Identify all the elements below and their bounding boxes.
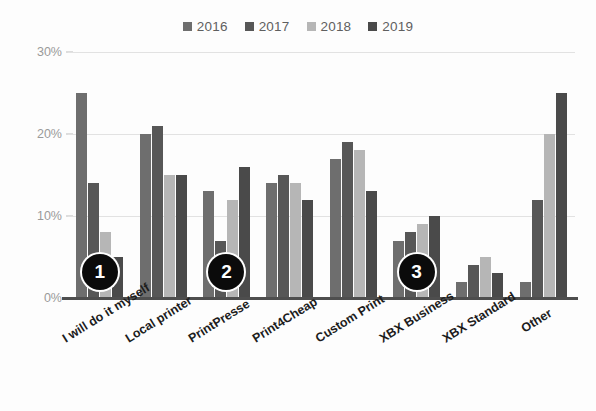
bar[interactable]	[278, 175, 289, 298]
bar[interactable]	[302, 200, 313, 298]
x-axis-category-label: Custom Print	[313, 306, 365, 345]
bar[interactable]	[468, 265, 479, 298]
legend-item-2016[interactable]: 2016	[183, 20, 228, 34]
x-axis-category-label: XBX Standard	[440, 306, 492, 345]
legend-swatch-icon	[183, 22, 192, 31]
bar[interactable]	[164, 175, 175, 298]
y-axis-tick-label: 20%	[22, 127, 62, 141]
bar[interactable]	[152, 126, 163, 298]
legend-label: 2019	[382, 20, 413, 34]
y-axis-tick-label: 10%	[22, 209, 62, 223]
bar[interactable]	[342, 142, 353, 298]
bar[interactable]	[266, 183, 277, 298]
bar-group	[138, 52, 188, 298]
y-axis-tick-label: 30%	[22, 45, 62, 59]
x-axis-labels: I will do it myselfLocal printerPrintPre…	[68, 300, 575, 395]
plot-area	[68, 52, 575, 298]
legend-swatch-icon	[245, 22, 254, 31]
bar[interactable]	[456, 282, 467, 298]
legend-label: 2017	[259, 20, 290, 34]
x-axis-category-label: PrintPresse	[186, 306, 238, 345]
x-axis-category-label: Other	[503, 306, 555, 345]
bar-group	[328, 52, 378, 298]
legend-item-2019[interactable]: 2019	[368, 20, 413, 34]
y-axis-tick-label: 0%	[22, 291, 62, 305]
bar-chart: 2016201720182019 0%10%20%30% I will do i…	[0, 0, 596, 411]
y-axis-labels: 0%10%20%30%	[22, 52, 62, 298]
x-axis-category-label: XBX Business	[376, 306, 428, 345]
bar[interactable]	[354, 150, 365, 298]
x-axis-category-label: I will do it myself	[60, 306, 112, 345]
bar[interactable]	[366, 191, 377, 298]
legend-item-2018[interactable]: 2018	[307, 20, 352, 34]
bar[interactable]	[330, 159, 341, 298]
legend-label: 2016	[197, 20, 228, 34]
legend-item-2017[interactable]: 2017	[245, 20, 290, 34]
annotation-badge-3[interactable]: 3	[399, 254, 435, 290]
bar[interactable]	[532, 200, 543, 298]
x-axis-category-label: Local printer	[123, 306, 175, 345]
bar[interactable]	[480, 257, 491, 298]
bar-group	[455, 52, 505, 298]
legend-swatch-icon	[368, 22, 377, 31]
legend-swatch-icon	[307, 22, 316, 31]
x-axis-category-label: Print4Cheap	[250, 306, 302, 345]
annotation-badge-1[interactable]: 1	[82, 254, 118, 290]
bar-group	[265, 52, 315, 298]
bar[interactable]	[520, 282, 531, 298]
bar[interactable]	[544, 134, 555, 298]
bar[interactable]	[176, 175, 187, 298]
bar-group	[518, 52, 568, 298]
legend-label: 2018	[321, 20, 352, 34]
chart-legend: 2016201720182019	[0, 20, 596, 34]
bar[interactable]	[290, 183, 301, 298]
bar[interactable]	[140, 134, 151, 298]
bar[interactable]	[556, 93, 567, 298]
bar[interactable]	[429, 216, 440, 298]
